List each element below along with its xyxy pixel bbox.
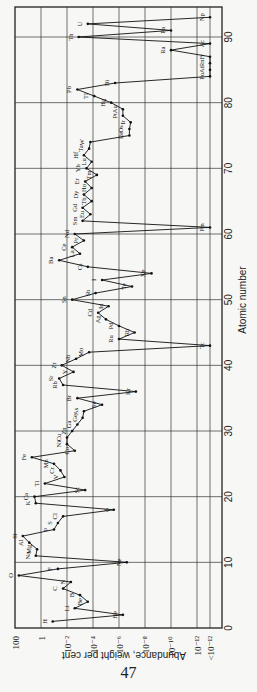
data-point — [84, 180, 87, 183]
element-label: Ho — [80, 184, 87, 192]
y-tick-label: <10⁻¹² — [206, 636, 216, 661]
data-point — [170, 49, 173, 52]
data-point — [110, 101, 113, 104]
x-tick-label: 60 — [223, 228, 234, 240]
data-point — [101, 403, 104, 406]
x-tick-label: 80 — [223, 97, 234, 109]
data-point — [31, 456, 34, 459]
element-label: Cl — [51, 513, 58, 519]
y-tick-label: 100 — [11, 636, 21, 650]
data-point — [96, 174, 99, 177]
element-label: Sc — [73, 487, 80, 494]
element-label: Ag — [94, 315, 101, 324]
element-label: Be — [76, 598, 83, 605]
data-point — [61, 364, 64, 367]
data-point — [89, 141, 92, 144]
data-point — [209, 62, 212, 65]
plot-frame — [15, 7, 222, 628]
x-tick-label: 30 — [223, 425, 234, 437]
data-point — [170, 29, 173, 32]
x-tick-label: 0 — [223, 625, 234, 631]
element-label: Fr — [198, 53, 205, 60]
element-label: Mn — [42, 459, 49, 469]
element-label: Rb — [51, 381, 58, 389]
element-label: In — [97, 303, 104, 309]
data-point — [70, 581, 73, 584]
data-point — [90, 160, 93, 163]
data-point — [209, 16, 212, 19]
data-point — [84, 489, 87, 492]
data-point — [101, 279, 104, 282]
data-point — [114, 82, 117, 85]
data-point — [81, 220, 84, 223]
element-label: Rh — [123, 328, 130, 336]
data-point — [135, 390, 138, 393]
data-point — [97, 312, 100, 315]
data-point — [58, 377, 61, 380]
x-tick-label: 40 — [223, 359, 234, 371]
data-point — [107, 305, 110, 308]
element-label: He — [111, 611, 118, 619]
data-point — [209, 55, 212, 58]
data-point — [88, 351, 91, 354]
element-label: Te — [120, 283, 127, 290]
data-point — [76, 423, 79, 426]
data-point — [131, 285, 134, 288]
element-label: Ra — [159, 46, 166, 53]
data-point — [129, 121, 132, 124]
data-point — [18, 574, 21, 577]
data-point — [22, 535, 25, 538]
abundance-chart: 100110⁻²10⁻⁴10⁻⁶10⁻⁸10⁻¹⁰10⁻¹²<10⁻¹²0102… — [0, 0, 257, 692]
data-point — [94, 292, 97, 295]
data-point — [105, 318, 108, 321]
data-point — [209, 75, 212, 78]
data-point — [122, 108, 125, 111]
element-label: Th — [67, 33, 74, 41]
element-label: Y — [62, 369, 69, 374]
element-label: N — [59, 579, 66, 584]
element-label: Nd — [63, 229, 70, 238]
data-point — [87, 266, 90, 269]
element-label: Cd — [86, 308, 93, 316]
data-point — [133, 331, 136, 334]
data-point — [63, 476, 66, 479]
data-point — [93, 95, 96, 98]
data-point — [83, 154, 86, 157]
element-label: F — [46, 567, 53, 571]
data-point — [36, 548, 39, 551]
data-point — [71, 298, 74, 301]
data-point — [75, 357, 78, 360]
page-number: 47 — [0, 664, 257, 682]
x-tick-label: 50 — [223, 294, 234, 306]
element-label: Hg — [99, 98, 106, 107]
data-point — [83, 193, 86, 196]
data-point — [113, 509, 116, 512]
data-point — [33, 495, 36, 498]
data-point — [90, 187, 93, 190]
data-point — [74, 449, 77, 452]
element-label: V — [52, 474, 59, 479]
element-label: Bi — [103, 80, 110, 86]
data-point — [83, 239, 86, 242]
data-point — [79, 594, 82, 597]
data-point — [81, 417, 84, 420]
data-point — [51, 620, 54, 623]
element-label: Lu — [80, 157, 87, 165]
data-point — [74, 607, 77, 610]
element-label: Cs — [76, 263, 83, 270]
element-label: Er — [73, 178, 80, 185]
element-label: K — [24, 501, 31, 506]
data-point — [122, 115, 125, 118]
data-point — [44, 482, 47, 485]
data-point — [28, 541, 31, 544]
element-label: P — [42, 527, 49, 531]
element-label: Os — [117, 125, 124, 133]
element-label: Sn — [60, 295, 67, 303]
element-label: Np — [198, 13, 205, 21]
x-tick-label: 70 — [223, 162, 234, 174]
x-tick-label: 90 — [223, 31, 234, 43]
element-label: As — [72, 407, 79, 415]
element-label: Ba — [47, 257, 54, 264]
data-point — [81, 206, 84, 209]
element-label: Ac — [198, 40, 205, 48]
